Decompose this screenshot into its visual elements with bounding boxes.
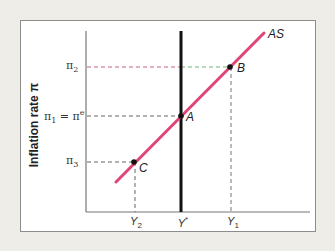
- point-a-label: A: [186, 110, 194, 124]
- y2-subscript: 2: [137, 221, 141, 230]
- y-axis-label: Inflation rate π: [27, 83, 41, 168]
- point-c-marker: [131, 159, 137, 165]
- as-curve: [116, 33, 264, 182]
- y-tick-pi1: π1 = πe: [44, 108, 85, 125]
- x-tick-y1: Y1: [227, 215, 239, 230]
- y-tick-pi2: π2: [66, 59, 78, 74]
- as-curve-label: AS: [268, 27, 284, 41]
- point-a-marker: [178, 113, 184, 119]
- point-b-marker: [227, 64, 233, 70]
- chart-plot: [0, 0, 335, 251]
- point-c-label: C: [139, 161, 148, 175]
- y-tick-pi3: π3: [66, 154, 78, 169]
- ystar-superscript: *: [185, 215, 188, 224]
- x-tick-ystar: Y*: [178, 215, 188, 229]
- pi-symbol: π: [73, 110, 80, 123]
- y1-subscript: 1: [234, 221, 238, 230]
- pie-superscript: e: [80, 108, 85, 117]
- pi3-subscript: 3: [73, 160, 78, 169]
- pi2-subscript: 2: [73, 65, 78, 74]
- x-tick-y2: Y2: [130, 215, 142, 230]
- equals-sign: =: [56, 110, 72, 123]
- point-b-label: B: [237, 61, 245, 75]
